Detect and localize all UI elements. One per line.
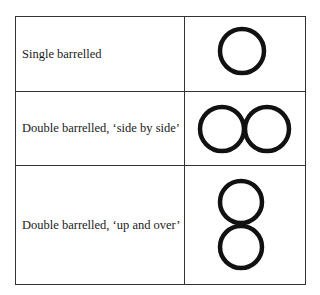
- row-label: Single barrelled: [16, 17, 185, 92]
- barrel-types-table: Single barrelled Double barrelled, ‘side…: [15, 16, 306, 285]
- two-circles-vertical-icon: [215, 175, 275, 275]
- row-label: Double barrelled, ‘side by side’: [16, 92, 185, 166]
- table-row: Single barrelled: [16, 17, 306, 92]
- table-row: Double barrelled, ‘up and over’: [16, 166, 306, 285]
- row-label: Double barrelled, ‘up and over’: [16, 166, 185, 285]
- single-circle-icon: [215, 24, 275, 84]
- two-circles-horizontal-icon: [195, 101, 295, 157]
- table-row: Double barrelled, ‘side by side’: [16, 92, 306, 166]
